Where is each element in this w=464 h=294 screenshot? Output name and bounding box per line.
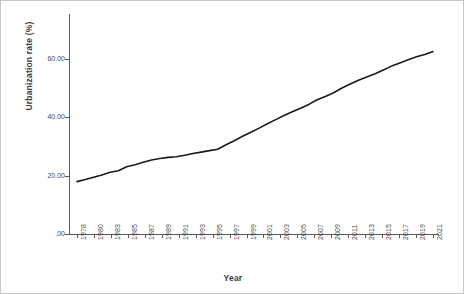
- x-tick-label-2009: 2009: [334, 224, 341, 240]
- x-tick-label-2019: 2019: [419, 224, 426, 240]
- x-tick-label-1989: 1989: [165, 224, 172, 240]
- y-tick-label-0: .00: [27, 230, 65, 237]
- x-tick-2019: [416, 234, 417, 238]
- x-tick-label-2011: 2011: [351, 225, 358, 240]
- x-tick-label-1999: 1999: [250, 224, 257, 240]
- y-axis-line: [69, 14, 70, 235]
- x-tick-1978: [77, 234, 78, 238]
- x-tick-1999: [247, 234, 248, 238]
- x-tick-label-1997: 1997: [233, 224, 240, 240]
- x-tick-label-1993: 1993: [199, 224, 206, 240]
- x-tick-label-2007: 2007: [317, 224, 324, 240]
- y-tick-40: [65, 117, 69, 118]
- x-tick-label-1987: 1987: [148, 224, 155, 240]
- x-tick-1987: [145, 234, 146, 238]
- x-tick-1991: [179, 234, 180, 238]
- y-tick-label-60: 60.00: [27, 55, 65, 62]
- x-tick-1989: [162, 234, 163, 238]
- x-tick-label-1985: 1985: [131, 224, 138, 240]
- x-tick-1997: [230, 234, 231, 238]
- y-tick-20: [65, 176, 69, 177]
- x-tick-label-1980: 1980: [97, 224, 104, 240]
- y-tick-label-40: 40.00: [27, 113, 65, 120]
- x-tick-2007: [314, 234, 315, 238]
- x-tick-label-2015: 2015: [385, 224, 392, 240]
- x-axis-title: Year: [1, 273, 464, 283]
- x-tick-label-1978: 1978: [80, 224, 87, 240]
- x-tick-label-2005: 2005: [300, 224, 307, 240]
- x-tick-label-1991: 1991: [182, 224, 189, 240]
- x-tick-1980: [94, 234, 95, 238]
- x-tick-1993: [196, 234, 197, 238]
- x-tick-label-1983: 1983: [114, 224, 121, 240]
- x-tick-2017: [399, 234, 400, 238]
- x-tick-2021: [433, 234, 434, 238]
- series-line-urbanization: [77, 51, 433, 181]
- y-axis-title: Urbanization rate (%): [24, 0, 34, 146]
- x-tick-2015: [382, 234, 383, 238]
- x-tick-label-2003: 2003: [283, 224, 290, 240]
- x-tick-1985: [128, 234, 129, 238]
- x-tick-1983: [111, 234, 112, 238]
- x-tick-label-2017: 2017: [402, 224, 409, 240]
- y-tick-label-20: 20.00: [27, 172, 65, 179]
- x-tick-label-1995: 1995: [216, 224, 223, 240]
- x-tick-2001: [263, 234, 264, 238]
- x-tick-2011: [348, 234, 349, 238]
- chart-figure: Urbanization rate (%) Year .0020.0040.00…: [0, 0, 464, 294]
- y-tick-60: [65, 59, 69, 60]
- x-tick-label-2001: 2001: [266, 224, 273, 240]
- x-tick-2005: [297, 234, 298, 238]
- x-tick-2003: [280, 234, 281, 238]
- y-tick-0: [65, 234, 69, 235]
- plot-area: [1, 1, 464, 294]
- x-tick-2009: [331, 234, 332, 238]
- x-tick-label-2013: 2013: [368, 224, 375, 240]
- x-tick-2013: [365, 234, 366, 238]
- x-tick-label-2021: 2021: [436, 224, 443, 240]
- x-tick-1995: [213, 234, 214, 238]
